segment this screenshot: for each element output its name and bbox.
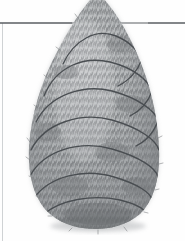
illustration-canvas: Grayscale drawing of a tall egg shaped e… xyxy=(0,0,185,241)
figure-svg xyxy=(0,0,185,241)
